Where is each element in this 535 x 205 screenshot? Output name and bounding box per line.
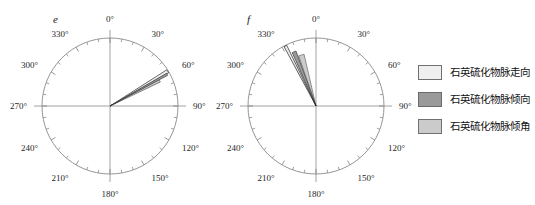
legend-label-dip-direction: 石英硫化物脉倾向 — [450, 94, 530, 105]
rose-petal — [110, 73, 168, 106]
rose-tick — [98, 39, 99, 42]
rose-tick — [348, 161, 351, 165]
rose-degree-label: 90° — [193, 101, 206, 111]
rose-degree-label: 180° — [101, 189, 119, 199]
rose-tick — [58, 148, 60, 150]
rose-degree-label: 60° — [388, 60, 401, 70]
rose-tick — [252, 128, 255, 129]
rose-tick — [76, 161, 79, 165]
rose-degree-label: 0° — [312, 14, 321, 24]
rose-tick — [377, 128, 380, 129]
rose-tick — [282, 161, 285, 165]
legend-label-strike: 石英硫化物脉走向 — [450, 67, 530, 78]
rose-degree-label: 30° — [152, 29, 165, 39]
rose-tick — [358, 54, 360, 56]
rose-tick — [174, 94, 177, 95]
rose-tick — [252, 83, 255, 84]
rose-tick — [366, 148, 368, 150]
rose-diagram-figure: e 0°30°60°90°120°150°180°210°240°270°300… — [0, 0, 535, 205]
rose-degree-label: 300° — [21, 60, 39, 70]
rose-tick — [272, 156, 274, 158]
rose-panel-e: e 0°30°60°90°120°150°180°210°240°270°300… — [0, 0, 220, 205]
legend-swatch-dip-angle — [418, 119, 442, 134]
rose-tick — [58, 62, 60, 64]
rose-tick — [121, 170, 122, 173]
rose-tick — [171, 128, 174, 129]
rose-degree-label: 30° — [358, 29, 371, 39]
rose-tick — [304, 39, 305, 42]
rose-tick — [264, 148, 266, 150]
rose-degree-label: 270° — [216, 101, 234, 111]
rose-tick — [293, 42, 294, 45]
rose-tick — [174, 117, 177, 118]
rose-tick — [165, 138, 169, 141]
rose-degree-label: 180° — [307, 189, 325, 199]
rose-tick — [66, 54, 68, 56]
rose-tick — [43, 94, 46, 95]
legend-item-dip-direction: 石英硫化物脉倾向 — [418, 89, 530, 110]
rose-degree-label: 60° — [182, 60, 195, 70]
rose-petal — [284, 45, 316, 106]
rose-tick — [348, 47, 351, 51]
legend-item-strike: 石英硫化物脉走向 — [418, 62, 530, 83]
rose-degree-label: 150° — [152, 173, 170, 183]
rose-degree-label: 90° — [399, 101, 412, 111]
legend-swatch-dip-direction — [418, 92, 442, 107]
rose-tick — [46, 83, 49, 84]
rose-tick — [272, 54, 274, 56]
rose-tick — [282, 47, 285, 51]
rose-tick — [327, 170, 328, 173]
rose-tick — [358, 156, 360, 158]
rose-degree-label: 120° — [182, 143, 200, 153]
rose-tick — [160, 62, 162, 64]
rose-tick — [304, 170, 305, 173]
rose-degree-label: 210° — [257, 173, 275, 183]
rose-tick — [249, 117, 252, 118]
rose-tick — [87, 42, 88, 45]
rose-tick — [366, 62, 368, 64]
rose-tick — [121, 39, 122, 42]
rose-tick — [87, 167, 88, 170]
rose-degree-label: 240° — [21, 143, 39, 153]
rose-degree-label: 210° — [51, 173, 69, 183]
rose-tick — [142, 47, 145, 51]
legend-swatch-strike — [418, 65, 442, 80]
rose-tick — [46, 128, 49, 129]
rose-tick — [257, 138, 261, 141]
rose-tick — [264, 62, 266, 64]
rose-tick — [51, 72, 55, 75]
rose-tick — [380, 117, 383, 118]
rose-degree-label: 120° — [388, 143, 406, 153]
rose-tick — [249, 94, 252, 95]
rose-panel-f: f 0°30°60°90°120°150°180°210°240°270°300… — [206, 0, 426, 205]
rose-chart-e: 0°30°60°90°120°150°180°210°240°270°300°3… — [0, 0, 220, 205]
rose-tick — [293, 167, 294, 170]
rose-tick — [66, 156, 68, 158]
rose-tick — [338, 42, 339, 45]
rose-degree-label: 330° — [257, 29, 275, 39]
rose-tick — [371, 72, 375, 75]
legend-item-dip-angle: 石英硫化物脉倾角 — [418, 116, 530, 137]
rose-degree-label: 150° — [358, 173, 376, 183]
rose-tick — [43, 117, 46, 118]
rose-degree-label: 240° — [227, 143, 245, 153]
rose-tick — [160, 148, 162, 150]
rose-degree-label: 300° — [227, 60, 245, 70]
rose-tick — [371, 138, 375, 141]
legend: 石英硫化物脉走向 石英硫化物脉倾向 石英硫化物脉倾角 — [418, 62, 535, 146]
legend-label-dip-angle: 石英硫化物脉倾角 — [450, 121, 530, 132]
rose-tick — [380, 94, 383, 95]
rose-tick — [132, 167, 133, 170]
rose-tick — [377, 83, 380, 84]
rose-tick — [257, 72, 261, 75]
rose-degree-label: 270° — [10, 101, 28, 111]
rose-tick — [338, 167, 339, 170]
rose-chart-f: 0°30°60°90°120°150°180°210°240°270°300°3… — [206, 0, 426, 205]
rose-tick — [142, 161, 145, 165]
rose-tick — [152, 156, 154, 158]
rose-tick — [152, 54, 154, 56]
rose-tick — [171, 83, 174, 84]
rose-tick — [98, 170, 99, 173]
rose-tick — [132, 42, 133, 45]
rose-tick — [51, 138, 55, 141]
